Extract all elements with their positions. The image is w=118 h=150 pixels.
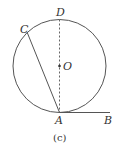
center-point-O [58, 65, 61, 68]
geometry-figure: D C O A B (c) [0, 0, 118, 150]
label-C: C [20, 23, 29, 36]
figure-caption: (c) [53, 132, 67, 143]
label-A: A [54, 114, 63, 127]
chord-AC [27, 32, 60, 113]
label-B: B [103, 114, 112, 127]
label-D: D [55, 6, 65, 19]
label-O: O [63, 60, 72, 73]
